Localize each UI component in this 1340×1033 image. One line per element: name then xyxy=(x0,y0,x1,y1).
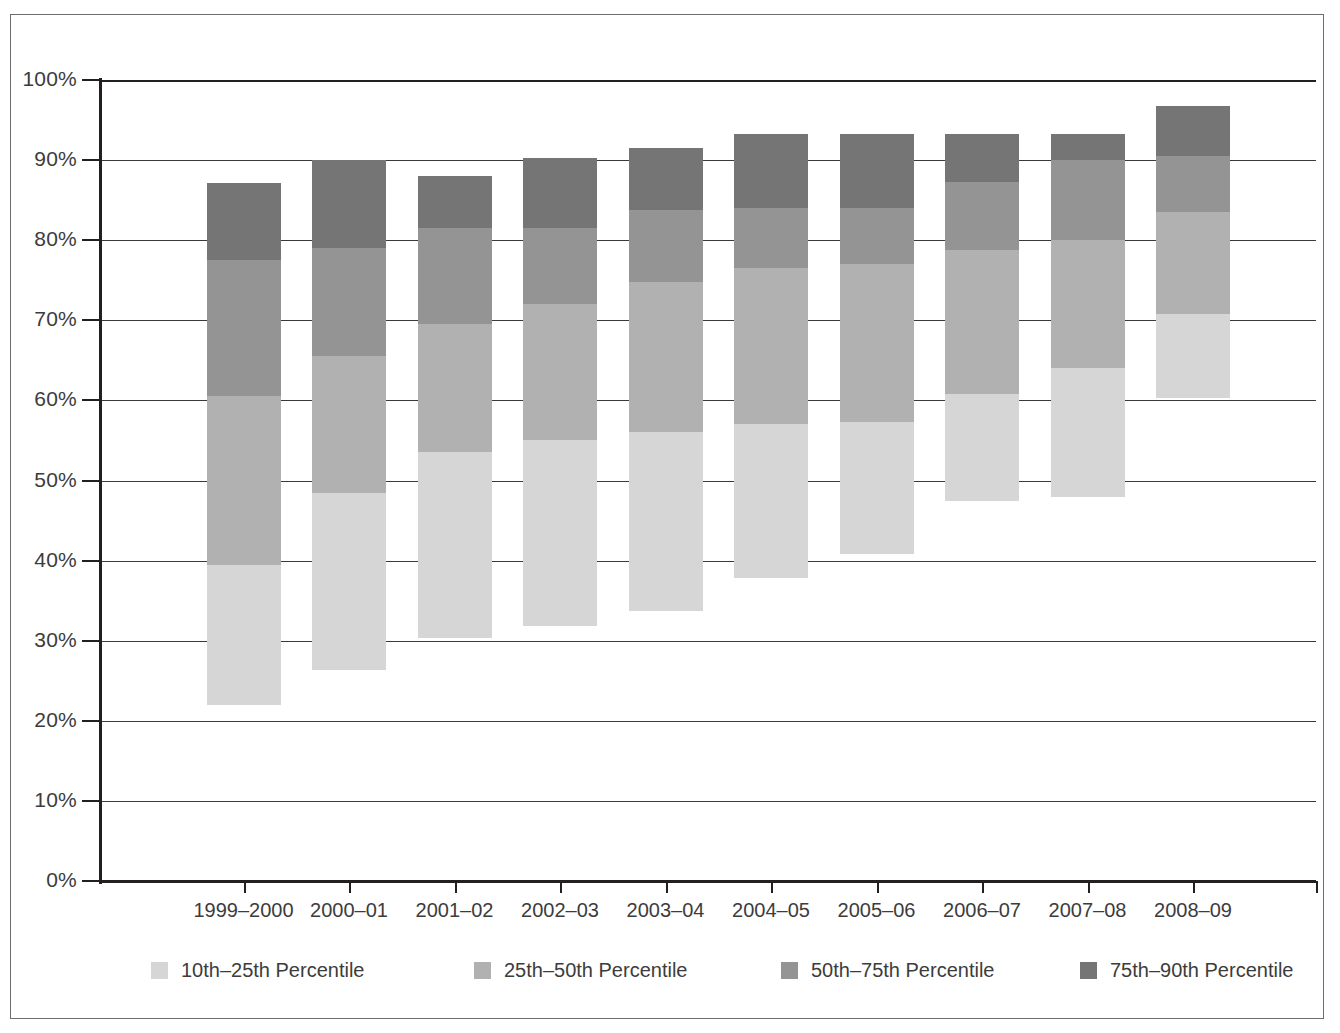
bar-segment xyxy=(840,264,914,422)
gridline-0 xyxy=(102,880,1316,883)
bar-segment xyxy=(734,424,808,578)
x-axis-label: 2003–04 xyxy=(627,899,705,922)
x-axis-label: 2004–05 xyxy=(732,899,810,922)
bar-segment xyxy=(523,158,597,228)
y-tick-50 xyxy=(82,480,99,482)
x-axis-label: 2006–07 xyxy=(943,899,1021,922)
figure-frame: 0%10%20%30%40%50%60%70%80%90%100% 1999–2… xyxy=(10,14,1324,1019)
bar-segment xyxy=(1051,368,1125,496)
gridline-50 xyxy=(102,481,1316,482)
x-tick xyxy=(771,881,773,893)
y-axis-label: 80% xyxy=(11,227,77,251)
plot-area xyxy=(102,80,1316,881)
gridline-10 xyxy=(102,801,1316,802)
bar-2007-08 xyxy=(1051,80,1125,881)
x-tick xyxy=(455,881,457,893)
x-tick xyxy=(349,881,351,893)
x-tick xyxy=(560,881,562,893)
legend-item[interactable]: 75th–90th Percentile xyxy=(1080,955,1293,985)
y-tick-60 xyxy=(82,399,99,401)
y-axis-label: 10% xyxy=(11,788,77,812)
y-axis-label: 70% xyxy=(11,307,77,331)
bar-segment xyxy=(734,268,808,424)
legend-label: 25th–50th Percentile xyxy=(504,959,687,982)
legend-swatch-icon xyxy=(1080,962,1097,979)
gridline-90 xyxy=(102,160,1316,161)
bar-2002-03 xyxy=(523,80,597,881)
legend-item[interactable]: 25th–50th Percentile xyxy=(474,955,687,985)
bar-2005-06 xyxy=(840,80,914,881)
bar-segment xyxy=(207,183,281,261)
bar-segment xyxy=(945,134,1019,181)
x-axis-label: 2002–03 xyxy=(521,899,599,922)
bar-2006-07 xyxy=(945,80,1019,881)
y-tick-20 xyxy=(82,720,99,722)
gridline-40 xyxy=(102,561,1316,562)
bar-segment xyxy=(840,134,914,208)
bar-segment xyxy=(840,208,914,264)
y-axis-label: 20% xyxy=(11,708,77,732)
bar-segment xyxy=(945,182,1019,250)
bar-segment xyxy=(418,324,492,452)
x-axis-label: 2008–09 xyxy=(1154,899,1232,922)
bar-segment xyxy=(312,160,386,248)
gridline-60 xyxy=(102,400,1316,401)
bar-2003-04 xyxy=(629,80,703,881)
y-tick-30 xyxy=(82,640,99,642)
legend-label: 10th–25th Percentile xyxy=(181,959,364,982)
y-tick-90 xyxy=(82,159,99,161)
legend-label: 75th–90th Percentile xyxy=(1110,959,1293,982)
bar-2008-09 xyxy=(1156,80,1230,881)
y-axis-label: 60% xyxy=(11,387,77,411)
y-tick-10 xyxy=(82,800,99,802)
bar-segment xyxy=(629,282,703,433)
legend-label: 50th–75th Percentile xyxy=(811,959,994,982)
x-tick xyxy=(1193,881,1195,893)
bar-segment xyxy=(945,394,1019,501)
bar-segment xyxy=(1156,314,1230,398)
gridline-30 xyxy=(102,641,1316,642)
bar-2001-02 xyxy=(418,80,492,881)
bar-segment xyxy=(312,356,386,492)
bar-segment xyxy=(312,493,386,671)
x-tick-end xyxy=(1316,881,1318,893)
legend-swatch-icon xyxy=(151,962,168,979)
legend-item[interactable]: 10th–25th Percentile xyxy=(151,955,364,985)
legend-swatch-icon xyxy=(781,962,798,979)
bar-segment xyxy=(629,432,703,611)
bar-2000-01 xyxy=(312,80,386,881)
y-axis-label: 0% xyxy=(11,868,77,892)
chart-legend: 10th–25th Percentile25th–50th Percentile… xyxy=(102,955,1316,995)
gridline-20 xyxy=(102,721,1316,722)
y-tick-40 xyxy=(82,560,99,562)
y-axis-label: 30% xyxy=(11,628,77,652)
bar-1999-2000 xyxy=(207,80,281,881)
bar-segment xyxy=(418,228,492,324)
legend-swatch-icon xyxy=(474,962,491,979)
y-axis-label: 100% xyxy=(11,67,77,91)
x-axis-label: 2001–02 xyxy=(416,899,494,922)
y-axis-label: 50% xyxy=(11,468,77,492)
bar-segment xyxy=(523,304,597,440)
bar-segment xyxy=(629,210,703,282)
y-axis-label: 40% xyxy=(11,548,77,572)
bar-segment xyxy=(207,260,281,396)
legend-item[interactable]: 50th–75th Percentile xyxy=(781,955,994,985)
bar-segment xyxy=(840,422,914,554)
bar-segment xyxy=(1156,212,1230,314)
y-tick-100 xyxy=(82,79,99,81)
bar-segment xyxy=(207,396,281,564)
y-tick-70 xyxy=(82,319,99,321)
x-tick xyxy=(666,881,668,893)
bar-segment xyxy=(312,248,386,356)
x-axis-label: 2000–01 xyxy=(310,899,388,922)
bar-segment xyxy=(1156,106,1230,156)
bar-segment xyxy=(1051,240,1125,368)
gridline-70 xyxy=(102,320,1316,321)
bar-segment xyxy=(734,208,808,268)
bar-segment xyxy=(1051,134,1125,160)
gridline-100 xyxy=(102,80,1316,82)
y-tick-0 xyxy=(82,880,99,882)
x-axis-label: 2007–08 xyxy=(1049,899,1127,922)
bar-2004-05 xyxy=(734,80,808,881)
